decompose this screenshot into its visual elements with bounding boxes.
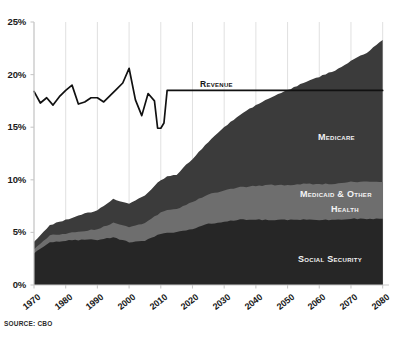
y-tick-label: 0% xyxy=(0,279,26,290)
revenue-label: Revenue xyxy=(200,79,233,89)
source-note: Source: CBO xyxy=(4,320,52,327)
y-tick-label: 25% xyxy=(0,16,26,27)
y-tick-label: 10% xyxy=(0,174,26,185)
y-tick-label: 15% xyxy=(0,121,26,132)
social-security-label: Social Security xyxy=(298,254,362,264)
medicaid-label-line1: Medicaid & Other xyxy=(300,189,372,199)
y-tick-label: 5% xyxy=(0,226,26,237)
chart-figure: Source: CBO 0%5%10%15%20%25%197019801990… xyxy=(0,0,398,338)
y-tick-label: 20% xyxy=(0,69,26,80)
stacked-area-chart xyxy=(0,0,398,338)
medicaid-label-line2: Health xyxy=(331,204,359,214)
medicare-label: Medicare xyxy=(318,132,355,142)
